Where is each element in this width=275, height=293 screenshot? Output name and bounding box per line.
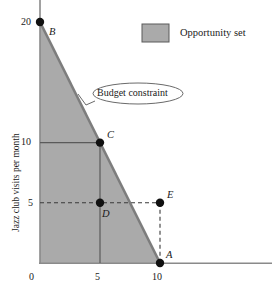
legend-label-opportunity-set: Opportunity set — [180, 28, 246, 39]
y-tick-label-5: 5 — [28, 198, 33, 208]
data-point-e — [156, 199, 164, 207]
chart-canvas — [0, 0, 275, 293]
point-label-b: B — [49, 27, 55, 38]
point-label-c: C — [107, 130, 114, 141]
x-tick-label-5: 5 — [95, 272, 100, 282]
data-point-a — [156, 259, 164, 267]
x-tick-label-0: 0 — [29, 272, 34, 282]
y-axis-title: Jazz club visits per month — [12, 133, 22, 232]
budget-constraint-callout-label: Budget constraint — [97, 88, 168, 98]
point-label-e: E — [167, 190, 173, 201]
y-tick-label-10: 10 — [21, 137, 31, 147]
data-point-c — [96, 138, 104, 146]
legend-swatch-opportunity-set — [142, 24, 169, 42]
data-point-d — [96, 199, 104, 207]
x-tick-label-10: 10 — [152, 272, 162, 282]
y-tick-label-20: 20 — [21, 17, 31, 27]
point-label-a: A — [166, 250, 172, 261]
point-label-d: D — [102, 209, 110, 220]
data-point-b — [36, 18, 44, 26]
opportunity-set-chart: Jazz club visits per month 20 10 5 0 5 1… — [0, 0, 275, 293]
